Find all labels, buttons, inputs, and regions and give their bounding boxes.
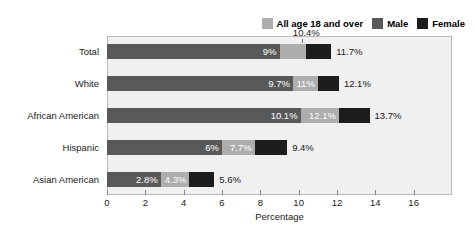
value-label-all: 11% (107, 78, 315, 89)
x-axis-tick-label: 6 (219, 197, 224, 208)
x-axis-tick-label: 14 (370, 197, 381, 208)
value-label-all: 4.3% (107, 174, 186, 185)
x-axis-tick (184, 190, 185, 195)
x-axis-tick-label: 0 (104, 197, 109, 208)
x-axis-tick-label: 16 (408, 197, 419, 208)
value-label-all: 7.7% (107, 142, 252, 153)
x-axis-tick-label: 2 (143, 197, 148, 208)
x-axis-tick (107, 190, 108, 195)
legend-label-female: Female (432, 18, 465, 29)
x-axis-tick (260, 190, 261, 195)
x-axis-tick (299, 190, 300, 195)
category-label-asian-american: Asian American (0, 174, 103, 185)
x-axis-tick-label: 8 (258, 197, 263, 208)
value-label-all: 10.4% (276, 27, 336, 38)
legend-label-male: Male (387, 18, 408, 29)
x-axis-tick (375, 190, 376, 195)
value-label-leader-line (302, 39, 303, 43)
category-label-hispanic: Hispanic (0, 142, 103, 153)
chart-legend: All age 18 and over Male Female (0, 16, 465, 30)
x-axis-tick (145, 190, 146, 195)
x-axis-tick-label: 10 (293, 197, 304, 208)
bar-rows: 9%10.4%11.7%9.7%11%12.1%10.1%12.1%13.7%6… (107, 36, 452, 195)
category-label-white: White (0, 78, 103, 89)
value-label-all: 12.1% (107, 110, 336, 121)
category-label-total: Total (0, 46, 103, 57)
legend-swatch-male-icon (372, 18, 383, 29)
x-axis-title: Percentage (107, 211, 452, 222)
value-label-female: 13.7% (375, 110, 402, 121)
value-label-male: 9% (107, 46, 277, 57)
value-label-female: 9.4% (292, 142, 314, 153)
x-axis-tick-label: 12 (332, 197, 343, 208)
x-axis-tick-label: 4 (181, 197, 186, 208)
value-label-female: 11.7% (336, 46, 362, 57)
y-axis-category-labels: TotalWhiteAfrican AmericanHispanicAsian … (0, 36, 103, 195)
x-axis-tick (414, 190, 415, 195)
value-label-female: 5.6% (219, 174, 241, 185)
legend-swatch-all-icon (262, 18, 273, 29)
x-axis-tick (337, 190, 338, 195)
legend-swatch-female-icon (417, 18, 428, 29)
legend-entry-male: Male (372, 18, 408, 29)
value-label-female: 12.1% (344, 78, 371, 89)
legend-entry-female: Female (417, 18, 465, 29)
category-label-african-american: African American (0, 110, 103, 121)
x-axis-tick (222, 190, 223, 195)
